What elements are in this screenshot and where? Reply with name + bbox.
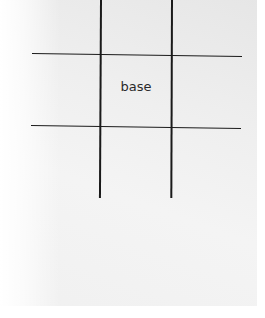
center-cell-label: base: [101, 79, 171, 94]
page-edge: [257, 0, 265, 318]
diagram-canvas: [0, 0, 265, 318]
